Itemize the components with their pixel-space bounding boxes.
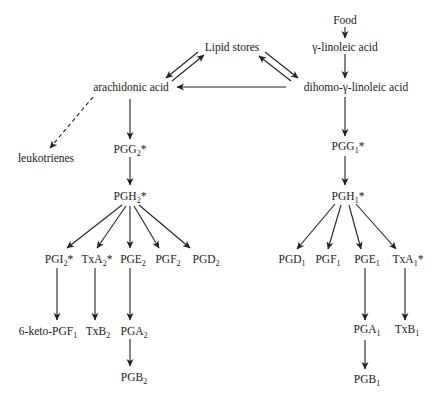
node-food: Food [333, 14, 357, 26]
node-pgh2: PGH2* [114, 190, 147, 205]
node-pge2: PGE2 [120, 253, 146, 268]
edge-pgh1-to-txa1 [356, 204, 396, 249]
node-pge1: PGE1 [354, 253, 380, 268]
node-pga1: PGA1 [353, 323, 380, 338]
node-txa2: TxA2* [82, 253, 113, 268]
node-arachidonic-acid: arachidonic acid [93, 81, 169, 93]
node-lipid-stores: Lipid stores [205, 41, 260, 54]
edge-pgh1-to-pgf1 [328, 205, 341, 249]
node-pgb1: PGB1 [354, 373, 380, 388]
edge-pgh1-to-pgd1 [297, 204, 335, 249]
edge-arachidonic-to-lipid [172, 55, 204, 81]
node-pga2: PGA2 [120, 325, 147, 340]
nodes: Food γ-linoleic acid Lipid stores arachi… [18, 14, 424, 388]
node-dihomo-gamma-linoleic-acid: dihomo-γ-linoleic acid [304, 81, 409, 94]
node-pgh1: PGH1* [332, 190, 365, 205]
node-pgf1: PGF1 [315, 253, 340, 268]
node-gamma-linoleic-acid: γ-linoleic acid [311, 41, 378, 54]
node-leukotrienes: leukotrienes [18, 152, 75, 164]
node-pgd2: PGD2 [192, 253, 219, 268]
node-txb2: TxB2 [86, 325, 110, 340]
node-6-keto-pgf1: 6-keto-PGF1 [19, 325, 77, 340]
node-txb1: TxB1 [395, 323, 419, 338]
node-pgi2: PGI2* [45, 253, 74, 268]
node-pgf2: PGF2 [155, 253, 180, 268]
node-pgb2: PGB2 [121, 371, 147, 386]
node-pgd1: PGD1 [278, 253, 305, 268]
edge-pgh1-to-pge1 [349, 205, 361, 249]
node-pgg2: PGG2* [114, 143, 147, 158]
edge-arachidonic-to-leukotrienes [50, 97, 93, 148]
edge-pgh2-to-pgf2 [134, 206, 159, 248]
node-pgg1: PGG1* [332, 140, 365, 155]
edge-pgh2-to-pgi2 [67, 205, 122, 248]
edge-pgh2-to-txa2 [97, 206, 126, 248]
node-txa1: TxA1* [393, 253, 424, 268]
pathway-diagram: Food γ-linoleic acid Lipid stores arachi… [0, 0, 437, 401]
edge-lipid-to-arachidonic [166, 52, 198, 78]
